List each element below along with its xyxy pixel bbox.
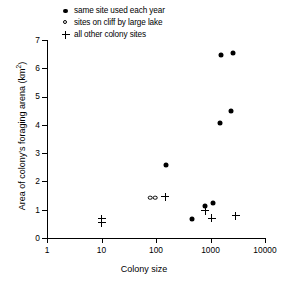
y-tick-label: 1 <box>30 206 40 214</box>
legend-label: same site used each year <box>74 5 165 16</box>
y-tick-label: 7 <box>30 36 40 44</box>
data-point <box>208 214 216 222</box>
y-tick-label: 0 <box>30 234 40 242</box>
data-point <box>230 50 235 55</box>
y-tick <box>42 181 47 182</box>
x-tick-label: 100 <box>149 246 163 254</box>
legend-label: sites on cliff by large lake <box>74 17 163 28</box>
filled-circle-marker-icon <box>60 5 74 16</box>
x-tick <box>265 238 266 243</box>
data-point <box>153 195 158 200</box>
y-tick <box>42 68 47 69</box>
y-tick <box>42 210 47 211</box>
data-point <box>218 52 223 57</box>
data-point <box>98 219 106 227</box>
plus-marker-icon <box>60 29 74 40</box>
legend-label: all other colony sites <box>74 29 146 40</box>
y-tick-label: 5 <box>30 92 40 100</box>
y-axis-title-tail: ) <box>17 62 27 65</box>
data-point <box>189 216 194 221</box>
data-point <box>229 108 234 113</box>
x-tick-label: 10000 <box>253 246 276 254</box>
x-axis-title: Colony size <box>0 264 288 274</box>
plot-area <box>0 0 288 284</box>
y-tick-label: 3 <box>30 149 40 157</box>
y-tick-label: 6 <box>30 64 40 72</box>
data-point <box>98 215 106 223</box>
y-tick <box>42 40 47 41</box>
y-axis-title: Area of colony's foraging arena (km2) <box>15 31 27 241</box>
x-tick <box>47 238 48 243</box>
scatter-chart-figure: same site used each year sites on cliff … <box>0 0 288 284</box>
x-tick <box>211 238 212 243</box>
x-tick-label: 1 <box>45 246 50 254</box>
x-tick-label: 10 <box>97 246 106 254</box>
data-point <box>161 193 169 201</box>
y-axis-line <box>47 40 48 239</box>
data-point <box>163 163 168 168</box>
y-tick <box>42 97 47 98</box>
legend-item-other-sites: all other colony sites <box>60 29 165 40</box>
y-axis-title-text: Area of colony's foraging arena (km <box>17 68 27 210</box>
legend-item-same-site: same site used each year <box>60 5 165 16</box>
legend-item-cliff-lake: sites on cliff by large lake <box>60 17 165 28</box>
data-point <box>218 120 223 125</box>
data-point <box>210 201 215 206</box>
y-tick <box>42 125 47 126</box>
data-point <box>232 212 240 220</box>
y-tick <box>42 153 47 154</box>
y-tick-label: 4 <box>30 121 40 129</box>
data-point <box>201 207 209 215</box>
x-tick-label: 1000 <box>201 246 220 254</box>
open-circle-marker-icon <box>60 17 74 28</box>
y-axis-title-superscript: 2 <box>15 65 22 69</box>
x-tick <box>156 238 157 243</box>
data-point <box>202 204 207 209</box>
y-tick-label: 2 <box>30 177 40 185</box>
data-point <box>148 195 153 200</box>
chart-legend: same site used each year sites on cliff … <box>60 5 165 41</box>
x-tick <box>102 238 103 243</box>
